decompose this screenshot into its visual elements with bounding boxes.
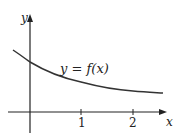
x-axis: 1 2 x xyxy=(8,109,173,130)
x-tick-label-1: 1 xyxy=(78,116,86,130)
y-axis-arrow-icon xyxy=(27,14,33,22)
function-graph: 1 2 x y y = f(x) xyxy=(0,0,178,140)
y-axis-label: y xyxy=(20,11,28,25)
curve-label: y = f(x) xyxy=(59,61,109,76)
x-tick-label-2: 2 xyxy=(129,116,137,130)
y-axis: y xyxy=(20,11,33,133)
x-axis-label: x xyxy=(166,115,173,129)
